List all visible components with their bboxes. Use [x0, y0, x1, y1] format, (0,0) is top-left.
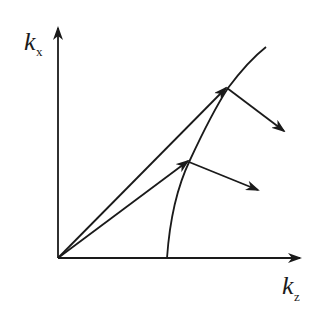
kx-label: k x — [24, 27, 43, 59]
dispersion-curve — [167, 47, 266, 258]
kz-label: k z — [282, 271, 300, 304]
wave-vector-diagram: k x k z — [0, 0, 326, 323]
kz-symbol: k — [282, 271, 294, 300]
normal-arrow-upper — [227, 88, 284, 131]
wave-vector-upper — [58, 88, 226, 258]
kx-symbol: k — [24, 27, 36, 56]
normal-arrow-lower — [189, 162, 258, 190]
kz-subscript: z — [294, 289, 300, 304]
kx-subscript: x — [36, 44, 43, 59]
